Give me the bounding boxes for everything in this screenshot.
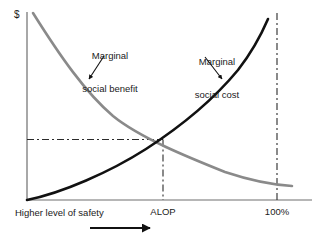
y-axis-label: $ [14, 9, 20, 20]
diagram-svg [0, 0, 325, 240]
x-axis-caption: Higher level of safety [15, 207, 104, 218]
x-axis-tick-label-100-percent: 100% [254, 206, 300, 217]
marginal-social-benefit-label-line2: social benefit [77, 83, 143, 94]
marginal-social-cost-label-line1: Marginal [184, 56, 250, 67]
diagram-canvas: $ Marginal social benefit Marginal socia… [0, 0, 325, 240]
marginal-social-benefit-label-line1: Marginal [77, 50, 143, 61]
marginal-social-benefit-label: Marginal social benefit [77, 28, 143, 116]
x-axis-tick-label-alop: ALOP [140, 206, 186, 217]
marginal-social-cost-label: Marginal social cost [184, 34, 250, 122]
marginal-social-cost-label-line2: social cost [184, 89, 250, 100]
